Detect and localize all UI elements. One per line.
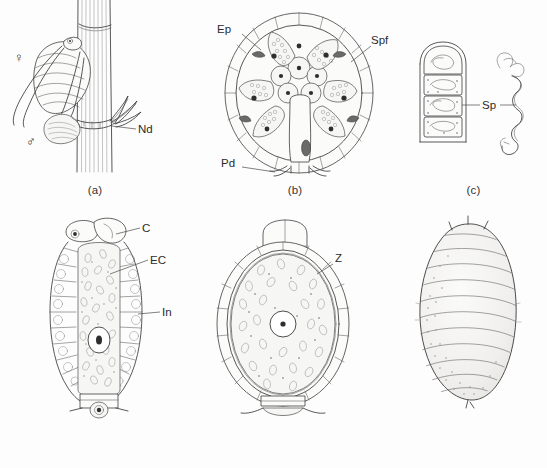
panel-a-drawing: ♀ ♂ Nd bbox=[0, 0, 190, 180]
cap-cells bbox=[66, 218, 126, 243]
pd-leader bbox=[242, 167, 275, 172]
label-sp: Sp bbox=[482, 99, 496, 111]
panel-b: Ep Spf Pd (b) bbox=[195, 0, 395, 180]
basal-foot-cells bbox=[70, 394, 128, 418]
caption-b: (b) bbox=[195, 184, 395, 196]
panel-f-drawing bbox=[390, 212, 547, 427]
panel-b-drawing: Ep Spf Pd bbox=[195, 0, 395, 180]
label-z: Z bbox=[335, 252, 342, 264]
panel-d: C EC In (d) bbox=[20, 212, 200, 427]
female-symbol: ♀ bbox=[14, 50, 24, 65]
embryo-nucleolus bbox=[96, 336, 102, 345]
panel-f: (f) bbox=[390, 212, 547, 427]
male-insect bbox=[44, 114, 80, 143]
in-leader bbox=[138, 312, 160, 314]
label-in: In bbox=[162, 306, 172, 318]
posterior-process bbox=[466, 400, 474, 408]
female-insect bbox=[13, 37, 90, 129]
label-ep: Ep bbox=[217, 23, 231, 35]
caption-c: (c) bbox=[400, 184, 547, 196]
egg-nucleolus bbox=[280, 321, 285, 326]
panel-c: Sp (c) bbox=[400, 30, 547, 180]
panel-c-drawing: Sp bbox=[400, 30, 547, 180]
nd-leader bbox=[112, 126, 136, 129]
sperm-chambers bbox=[420, 42, 466, 142]
ventral-organ-nucleus bbox=[302, 140, 311, 156]
panel-d-drawing: C EC In bbox=[20, 212, 200, 427]
label-spf: Spf bbox=[371, 34, 389, 46]
caption-a: (a) bbox=[0, 184, 190, 196]
basal-operculum bbox=[241, 396, 325, 416]
isolated-spermatozoon bbox=[497, 53, 524, 155]
figure-plate: ♀ ♂ Nd (a) bbox=[0, 0, 547, 468]
panel-e: Z (e) bbox=[205, 212, 385, 427]
label-c: C bbox=[142, 222, 150, 234]
panel-a: ♀ ♂ Nd (a) bbox=[0, 0, 190, 180]
leaf-blades bbox=[110, 96, 141, 127]
panel-e-drawing: Z bbox=[205, 212, 385, 427]
label-pd: Pd bbox=[221, 157, 235, 169]
label-nd: Nd bbox=[138, 123, 153, 135]
label-ec: EC bbox=[150, 254, 166, 266]
male-symbol: ♂ bbox=[26, 134, 36, 149]
